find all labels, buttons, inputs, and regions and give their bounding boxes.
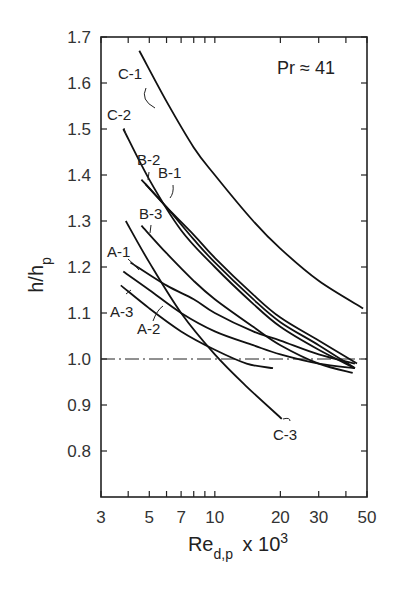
leader-line — [128, 259, 139, 270]
y-tick-label: 1.0 — [67, 350, 91, 369]
y-tick-label: 0.9 — [67, 396, 91, 415]
label-c-1: C-1 — [118, 65, 142, 82]
y-tick-label: 1.3 — [67, 212, 91, 231]
x-tick-label: 7 — [176, 508, 185, 527]
y-axis-title: h/hp — [25, 257, 54, 293]
annotation-pr: Pr ≈ 41 — [277, 58, 335, 78]
label-c-2: C-2 — [107, 106, 131, 123]
y-tick-label: 0.8 — [67, 442, 91, 461]
x-tick-label: 3 — [96, 508, 105, 527]
curve-b-1 — [145, 184, 357, 363]
label-b-3: B-3 — [139, 205, 162, 222]
y-tick-label: 1.7 — [67, 28, 91, 47]
x-tick-label: 10 — [205, 508, 224, 527]
x-tick-label: 20 — [271, 508, 290, 527]
chart: 0.80.91.01.11.21.31.41.51.61.7 357102030… — [0, 0, 394, 600]
y-tick-label: 1.5 — [67, 120, 91, 139]
curve-b-2 — [141, 180, 355, 369]
leader-line — [283, 418, 290, 421]
x-axis-title: Red,p x 103 — [188, 530, 288, 562]
data-series — [121, 51, 363, 419]
label-b-2: B-2 — [137, 151, 160, 168]
plot-frame — [101, 37, 367, 497]
curve-a-1 — [131, 262, 355, 363]
leader-line — [170, 185, 173, 198]
label-a-1: A-1 — [107, 243, 130, 260]
x-tick-label: 30 — [309, 508, 328, 527]
y-tick-label: 1.6 — [67, 74, 91, 93]
label-b-1: B-1 — [158, 164, 181, 181]
y-tick-label: 1.4 — [67, 166, 91, 185]
x-tick-label: 5 — [145, 508, 154, 527]
x-tick-label: 50 — [358, 508, 377, 527]
y-tick-label: 1.1 — [67, 304, 91, 323]
label-c-3: C-3 — [273, 426, 297, 443]
leader-line — [144, 88, 155, 108]
leader-line — [150, 225, 151, 233]
label-a-3: A-3 — [110, 303, 133, 320]
y-tick-label: 1.2 — [67, 258, 91, 277]
plot-border — [101, 37, 367, 497]
label-a-2: A-2 — [137, 320, 160, 337]
